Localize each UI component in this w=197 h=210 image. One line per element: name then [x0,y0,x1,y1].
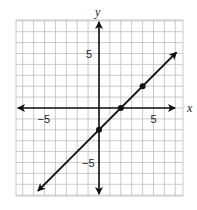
x-tick-label-5: 5 [151,113,157,125]
axes [18,22,175,194]
data-point [118,105,124,111]
y-tick-label-5: 5 [86,48,92,60]
x-tick-label-neg5: −5 [38,113,51,125]
line-arrow-lower [38,122,107,191]
data-point [140,83,146,89]
y-tick-label-neg5: −5 [82,157,95,169]
y-axis-label: y [94,5,101,19]
data-point [96,127,102,133]
x-axis-label: x [186,101,193,115]
coordinate-plane: −5 5 5 −5 x y [0,0,197,210]
tick-labels: −5 5 5 −5 x y [38,5,194,169]
